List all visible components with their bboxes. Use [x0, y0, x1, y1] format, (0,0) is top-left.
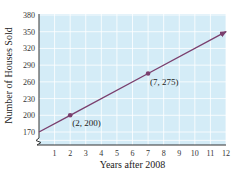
x-tick: 11 [207, 149, 215, 158]
data-point-label: (2, 200) [72, 118, 101, 128]
line-chart: 170200230260290320350380 123456789101112… [0, 0, 231, 172]
y-tick: 260 [23, 78, 35, 87]
y-axis-label: Number of Houses Sold [3, 27, 14, 123]
data-point-label: (7, 275) [150, 77, 179, 87]
x-tick: 2 [68, 149, 72, 158]
x-tick: 12 [222, 149, 230, 158]
x-tick: 7 [146, 149, 150, 158]
y-tick: 230 [23, 95, 35, 104]
x-tick: 9 [177, 149, 181, 158]
x-tick: 4 [99, 149, 103, 158]
y-tick: 200 [23, 111, 35, 120]
x-tick: 8 [162, 149, 166, 158]
data-point-marker [68, 113, 73, 118]
y-tick: 350 [23, 28, 35, 37]
x-tick: 1 [53, 149, 57, 158]
y-tick-labels: 170200230260290320350380 [23, 11, 35, 137]
data-point-marker [146, 71, 151, 76]
x-tick: 6 [131, 149, 135, 158]
y-tick: 380 [23, 11, 35, 20]
x-tick: 5 [115, 149, 119, 158]
y-tick: 320 [23, 44, 35, 53]
x-tick-labels: 123456789101112 [53, 149, 230, 158]
x-axis-label: Years after 2008 [100, 159, 166, 170]
x-tick: 10 [191, 149, 199, 158]
y-tick: 290 [23, 61, 35, 70]
y-tick: 170 [23, 128, 35, 137]
x-tick: 3 [84, 149, 88, 158]
